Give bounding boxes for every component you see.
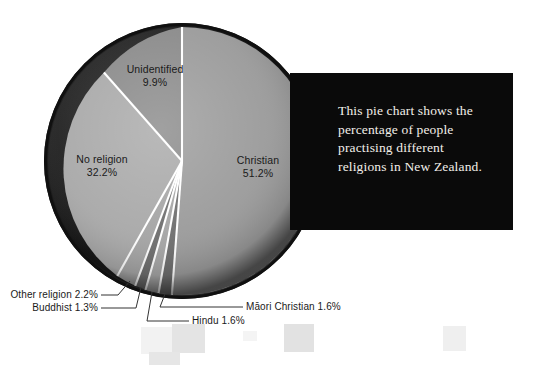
artifact-square bbox=[172, 324, 205, 353]
leader-label-buddhist: Buddhist 1.3% bbox=[0, 302, 98, 313]
caption-text: This pie chart shows the percentage of p… bbox=[338, 102, 490, 176]
artifact-square bbox=[284, 324, 314, 352]
pie-label-unidentified: Unidentified 9.9% bbox=[118, 63, 192, 88]
pie-label-christian-value: 51.2% bbox=[224, 167, 292, 180]
pie-label-unidentified-name: Unidentified bbox=[118, 63, 192, 76]
pie-label-unidentified-value: 9.9% bbox=[118, 76, 192, 89]
artifact-square bbox=[443, 326, 466, 351]
pie-label-christian: Christian 51.2% bbox=[224, 154, 292, 179]
caption-box: This pie chart shows the percentage of p… bbox=[290, 73, 513, 230]
artifact-square bbox=[141, 327, 172, 354]
pie-label-no-religion: No religion 32.2% bbox=[62, 153, 142, 178]
artifact-square bbox=[149, 352, 180, 365]
pie-label-no-religion-name: No religion bbox=[62, 153, 142, 166]
pie-label-no-religion-value: 32.2% bbox=[62, 166, 142, 179]
leader-label-maori-christian: Māori Christian 1.6% bbox=[246, 301, 341, 312]
pie-label-christian-name: Christian bbox=[224, 154, 292, 167]
leader-label-other-religion: Other religion 2.2% bbox=[0, 289, 98, 300]
artifact-square bbox=[243, 331, 257, 341]
leader-label-hindu: Hindu 1.6% bbox=[192, 315, 245, 326]
